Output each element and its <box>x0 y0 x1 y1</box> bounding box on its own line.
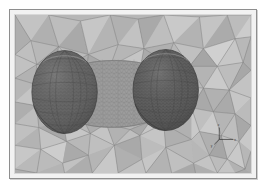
left-ellipsoid-body <box>32 51 97 134</box>
mesh-viewport[interactable]: z x y <box>15 15 251 173</box>
right-ellipsoid-body <box>133 50 198 131</box>
figure-inner-mat: z x y <box>14 14 252 174</box>
figure-frame: z x y <box>9 9 257 179</box>
screenshot-root: z x y <box>0 0 272 194</box>
mesh-render-svg: z x y <box>15 15 251 173</box>
